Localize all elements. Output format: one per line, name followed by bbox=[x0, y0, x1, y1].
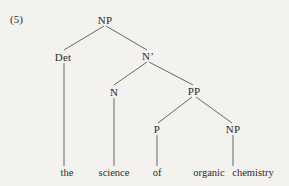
edge-pp-p bbox=[158, 97, 192, 123]
node-n: N bbox=[110, 87, 118, 98]
edge-pp-np bbox=[196, 97, 232, 123]
terminal-chemistry: chemistry bbox=[232, 167, 273, 178]
node-np-root: NP bbox=[98, 15, 112, 26]
node-pp: PP bbox=[188, 86, 201, 97]
node-np-object: NP bbox=[226, 124, 240, 135]
edge-np-nbar bbox=[106, 26, 147, 50]
syntax-tree-figure: (5) NP Det N’ N PP P NP the science of o… bbox=[0, 0, 289, 186]
node-p: P bbox=[154, 124, 160, 135]
node-det: Det bbox=[55, 52, 71, 63]
node-n-bar: N’ bbox=[142, 51, 154, 62]
edge-np-det bbox=[64, 26, 104, 50]
edge-nbar-n bbox=[114, 62, 147, 85]
edge-nbar-pp bbox=[149, 62, 193, 85]
terminal-the: the bbox=[61, 167, 74, 178]
terminal-of: of bbox=[153, 167, 162, 178]
tree-branch-lines bbox=[0, 0, 289, 186]
terminal-science: science bbox=[99, 167, 130, 178]
terminal-organic: organic bbox=[193, 167, 224, 178]
